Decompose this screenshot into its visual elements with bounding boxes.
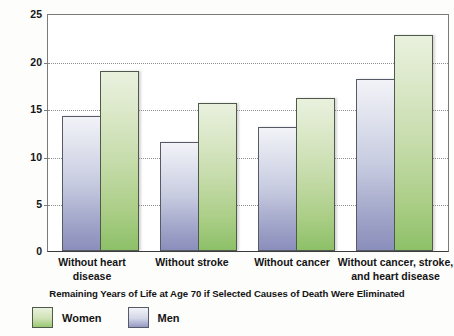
- bar-chart: Years 25 20 15 10 5 0: [0, 0, 454, 300]
- bar-group-without-heart-disease: [62, 15, 139, 251]
- y-tick-label-5: 5: [20, 198, 42, 210]
- x-label-line-1: Without cancer: [238, 256, 346, 270]
- bar-men-without-cancer-stroke-heart-disease[interactable]: [356, 79, 395, 251]
- x-label-line-2: and heart disease: [337, 270, 454, 284]
- bar-group-without-cancer-stroke-heart-disease: [356, 15, 433, 251]
- bar-women-without-cancer[interactable]: [296, 98, 335, 251]
- x-label-line-2: disease: [37, 270, 147, 284]
- y-tick-label-10: 10: [20, 151, 42, 163]
- y-tick-mark-5: [44, 205, 48, 206]
- bar-men-without-stroke[interactable]: [160, 142, 199, 251]
- bar-men-without-heart-disease[interactable]: [62, 116, 101, 251]
- x-label-line-1: Without stroke: [139, 256, 245, 270]
- x-axis-title: Remaining Years of Life at Age 70 if Sel…: [0, 288, 454, 299]
- bar-women-without-stroke[interactable]: [198, 103, 237, 251]
- bar-group-without-cancer: [258, 15, 335, 251]
- y-tick-mark-10: [44, 158, 48, 159]
- x-label-line-1: Without heart: [37, 256, 147, 270]
- legend-item-women[interactable]: Women: [32, 307, 102, 328]
- x-label-line-1: Without cancer, stroke,: [337, 256, 454, 270]
- y-tick-label-20: 20: [20, 56, 42, 68]
- chart-page: Years 25 20 15 10 5 0: [0, 0, 454, 336]
- x-axis-label-without-cancer-stroke-heart-disease: Without cancer, stroke, and heart diseas…: [337, 256, 454, 283]
- x-axis-label-without-cancer: Without cancer: [238, 256, 346, 270]
- y-tick-label-25: 25: [20, 8, 42, 20]
- bar-men-without-cancer[interactable]: [258, 127, 297, 251]
- legend-label-men: Men: [158, 312, 180, 324]
- bar-group-without-stroke: [160, 15, 237, 251]
- legend-swatch-men-icon: [128, 307, 149, 328]
- y-tick-label-15: 15: [20, 103, 42, 115]
- legend-label-women: Women: [62, 312, 102, 324]
- legend-swatch-women-icon: [32, 307, 53, 328]
- plot-area: [47, 14, 449, 252]
- y-tick-mark-15: [44, 110, 48, 111]
- bar-women-without-heart-disease[interactable]: [100, 71, 139, 251]
- y-axis-label: Years: [0, 130, 44, 146]
- chart-legend: Women Men: [32, 307, 180, 328]
- x-axis-label-without-stroke: Without stroke: [139, 256, 245, 270]
- bar-women-without-cancer-stroke-heart-disease[interactable]: [394, 35, 433, 251]
- x-axis-label-without-heart-disease: Without heart disease: [37, 256, 147, 283]
- y-tick-mark-20: [44, 63, 48, 64]
- legend-item-men[interactable]: Men: [128, 307, 180, 328]
